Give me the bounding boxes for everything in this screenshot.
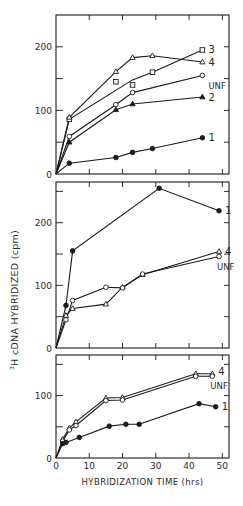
series-line-UNF (56, 376, 212, 458)
data-point (200, 73, 205, 78)
data-point (114, 79, 119, 84)
plot-frame (56, 355, 229, 458)
series-label-1: 1 (222, 401, 228, 412)
data-point (124, 422, 129, 427)
x-tick-label: 40 (183, 461, 195, 471)
data-point (200, 135, 205, 140)
data-point (150, 53, 155, 58)
series-line-4 (56, 56, 202, 174)
panel-top: 010020034UNF21 (35, 15, 229, 180)
svg-text:3H cDNA HYBRIDIZED (cpm): 3H cDNA HYBRIDIZED (cpm) (8, 230, 20, 370)
y-tick-label: 0 (46, 170, 52, 180)
data-point (217, 209, 222, 214)
data-point (193, 374, 198, 379)
x-tick-label: 30 (150, 461, 162, 471)
x-tick-label: 20 (117, 461, 129, 471)
x-tick-label: 50 (217, 461, 229, 471)
data-point (104, 398, 109, 403)
series-label-2: 2 (208, 92, 214, 103)
x-axis-label: HYBRIDIZATION TIME (hrs) (82, 477, 204, 487)
x-tick-label: 0 (53, 461, 59, 471)
series-label-UNF: UNF (217, 262, 235, 272)
data-point (137, 422, 142, 427)
y-tick-label: 100 (35, 106, 52, 116)
data-point (216, 249, 221, 254)
data-point (104, 285, 109, 290)
data-point (150, 70, 155, 75)
y-axis-label: 3H cDNA HYBRIDIZED (cpm) (4, 120, 24, 380)
data-point (157, 186, 162, 191)
series-line-4 (56, 252, 219, 348)
data-point (130, 150, 135, 155)
data-point (197, 401, 202, 406)
y-tick-label: 200 (35, 218, 52, 228)
series-line-UNF (56, 257, 219, 348)
y-tick-label: 100 (35, 391, 52, 401)
data-point (213, 405, 218, 410)
y-tick-label: 0 (46, 344, 52, 354)
data-point (140, 272, 145, 277)
data-point (107, 424, 112, 429)
series-label-4: 4 (225, 246, 231, 257)
series-line-1 (56, 404, 216, 458)
data-point (70, 249, 75, 254)
series-label-1: 1 (208, 132, 214, 143)
data-point (64, 440, 69, 445)
y-tick-label: 100 (35, 281, 52, 291)
series-line-4 (56, 374, 212, 458)
data-point (210, 374, 215, 379)
data-point (217, 254, 222, 259)
data-point (67, 428, 72, 433)
y-label-text: cDNA HYBRIDIZED (cpm) (9, 230, 20, 355)
y-tick-label: 0 (46, 454, 52, 464)
panel-bottom: 01004UNF101020304050HYBRIDIZATION TIME (… (35, 355, 229, 487)
data-point (130, 90, 135, 95)
series-label-4: 4 (208, 57, 214, 68)
data-point (114, 155, 119, 160)
series-line-1 (56, 138, 202, 174)
plot-frame (56, 182, 229, 348)
data-point (70, 298, 75, 303)
y-label-prefix: H (9, 358, 20, 365)
data-point (120, 398, 125, 403)
data-point (200, 48, 205, 53)
x-tick-label: 10 (84, 461, 96, 471)
data-point (130, 83, 135, 88)
data-point (150, 146, 155, 151)
data-point (120, 286, 125, 291)
panel-middle: 010020014UNF (35, 182, 235, 354)
data-point (64, 318, 69, 323)
data-point (67, 161, 72, 166)
series-label-3: 3 (208, 44, 214, 55)
series-line-3 (56, 50, 202, 174)
series-label-4: 4 (218, 366, 224, 377)
chart-canvas: 010020034UNF21010020014UNF01004UNF101020… (0, 0, 243, 506)
series-label-1: 1 (225, 205, 231, 216)
data-point (64, 303, 69, 308)
data-point (200, 94, 205, 99)
series-line-UNF (56, 75, 202, 174)
hybridization-figure: 010020034UNF21010020014UNF01004UNF101020… (0, 0, 243, 506)
y-tick-label: 200 (35, 42, 52, 52)
data-point (77, 435, 82, 440)
series-label-UNF: UNF (208, 81, 226, 91)
series-line-1 (56, 188, 219, 348)
data-point (74, 423, 79, 428)
data-point (67, 134, 72, 139)
series-label-UNF: UNF (210, 381, 228, 391)
